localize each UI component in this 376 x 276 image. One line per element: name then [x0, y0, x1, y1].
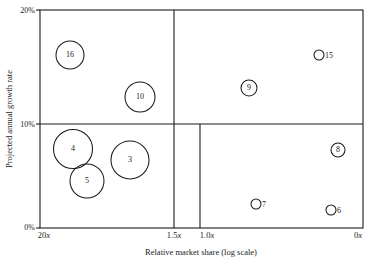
- plot-frame: [40, 10, 363, 228]
- bubble-10[interactable]: 10: [125, 82, 155, 112]
- x-tick-1-5x-value: 1.5: [167, 230, 178, 240]
- bubble-6[interactable]: 6: [326, 205, 341, 215]
- x-tick-label-1-5x: 1.5x: [167, 230, 182, 240]
- chart-canvas: 20% 10% 0% Projected annual growth rate …: [0, 0, 376, 276]
- y-tick-label-20pct: 20%: [20, 6, 35, 15]
- y-tick-label-10pct: 10%: [20, 120, 35, 129]
- x-tick-1-0x-unit: x: [209, 230, 214, 240]
- bubble-label-5: 5: [85, 176, 89, 185]
- x-tick-label-1-0x: 1.0x: [200, 230, 215, 240]
- bubble-label-7: 7: [262, 200, 266, 209]
- x-tick-0x-unit: x: [357, 230, 362, 240]
- bubble-chart: 20% 10% 0% Projected annual growth rate …: [0, 0, 376, 276]
- x-tick-20x-value: 20: [38, 230, 47, 240]
- bubble-label-9: 9: [247, 83, 251, 92]
- bubble-label-10: 10: [136, 92, 144, 101]
- bubble-label-15: 15: [325, 51, 333, 60]
- x-tick-20x-unit: x: [45, 230, 50, 240]
- x-tick-label-20x: 20x: [38, 230, 51, 240]
- x-tick-1-5x-unit: x: [176, 230, 181, 240]
- bubble-9[interactable]: 9: [241, 80, 257, 96]
- bubble-label-4: 4: [71, 144, 75, 153]
- x-tick-label-0x: 0x: [354, 230, 362, 240]
- y-axis-title: Projected annual growth rate: [4, 70, 14, 168]
- bubble-7[interactable]: 7: [251, 199, 266, 209]
- bubble-label-6: 6: [337, 206, 341, 215]
- bubble-label-8: 8: [336, 145, 340, 154]
- bubble-label-16: 16: [66, 50, 74, 59]
- bubble-3[interactable]: 3: [111, 141, 149, 179]
- bubble-4[interactable]: 4: [54, 130, 93, 169]
- bubble-8[interactable]: 8: [331, 143, 345, 157]
- bubble-15[interactable]: 15: [314, 50, 333, 60]
- bubble-circle-7[interactable]: [251, 199, 261, 209]
- x-axis-title: Relative market share (log scale): [145, 247, 257, 257]
- bubble-circle-6[interactable]: [326, 205, 336, 215]
- bubble-circle-15[interactable]: [314, 50, 324, 60]
- bubble-16[interactable]: 16: [56, 41, 84, 69]
- x-tick-1-0x-value: 1.0: [200, 230, 211, 240]
- y-tick-label-0pct: 0%: [24, 223, 35, 232]
- bubble-label-3: 3: [128, 155, 132, 164]
- bubble-5[interactable]: 5: [70, 164, 104, 198]
